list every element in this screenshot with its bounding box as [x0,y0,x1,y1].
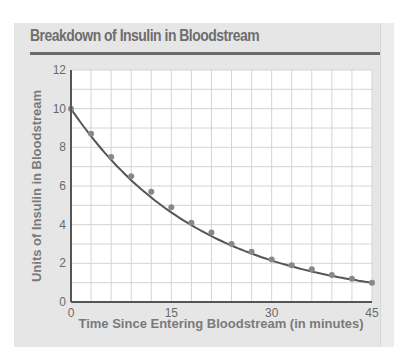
y-tick-label: 12 [53,63,67,77]
data-point [249,249,255,255]
x-axis-label: Time Since Entering Bloodstream (in minu… [78,316,363,331]
data-point [369,280,375,286]
data-point [188,220,194,226]
x-tick-label: 45 [365,306,379,320]
y-tick-label: 8 [59,140,66,154]
data-point [349,276,355,282]
y-tick-label: 2 [59,256,66,270]
data-point [229,241,235,247]
y-axis-label: Units of Insulin in Bloodstream [29,90,44,282]
y-tick-label: 6 [59,179,66,193]
y-tick-label: 0 [59,295,66,309]
data-point [108,154,114,160]
x-tick-label: 0 [68,306,75,320]
data-point [128,173,134,179]
data-point [329,272,335,278]
data-point [208,229,214,235]
data-point [309,266,315,272]
y-tick-label: 10 [53,102,67,116]
data-point [88,131,94,137]
data-point [168,204,174,210]
data-point [289,262,295,268]
data-point [148,189,154,195]
data-point [269,256,275,262]
chart-plot: 0153045024681012 Time Since Entering Blo… [0,0,410,363]
y-tick-label: 4 [59,218,66,232]
